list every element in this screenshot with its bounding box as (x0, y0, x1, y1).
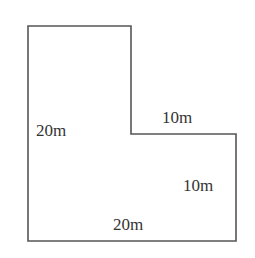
label-right-side: 10m (183, 176, 213, 195)
label-left-side: 20m (36, 121, 66, 140)
l-shape-diagram: 20m 10m 10m 20m (0, 0, 255, 258)
label-inner-top: 10m (162, 108, 192, 127)
label-bottom-side: 20m (113, 215, 143, 234)
